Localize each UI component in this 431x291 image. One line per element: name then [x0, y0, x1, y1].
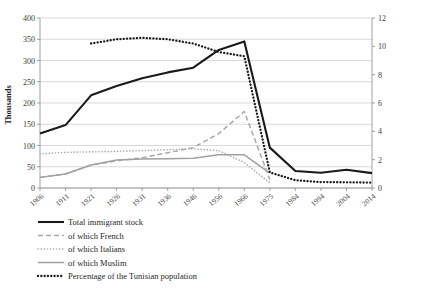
- legend-label: of which French: [68, 231, 124, 241]
- y-tick-label: 100: [23, 142, 35, 151]
- legend-label: of which Muslim: [68, 258, 127, 268]
- y-tick-label: 0: [31, 184, 35, 193]
- y2-tick-label: 4: [378, 127, 382, 136]
- y2-tick-label: 2: [378, 156, 382, 165]
- y-tick-label: 300: [23, 57, 35, 66]
- legend-label: Total immigrant stock: [68, 217, 144, 227]
- y-tick-label: 250: [23, 78, 35, 87]
- legend-label: Percentage of the Tunisian population: [68, 271, 198, 281]
- y-tick-label: 400: [23, 14, 35, 23]
- y-tick-label: 50: [27, 163, 35, 172]
- legend-label: of which Italians: [68, 244, 125, 254]
- y-tick-label: 150: [23, 120, 35, 129]
- y2-tick-label: 12: [378, 14, 386, 23]
- y2-tick-label: 10: [378, 42, 386, 51]
- y-tick-label: 350: [23, 35, 35, 44]
- chart-canvas: 050100150200250300350400 024681012 19061…: [0, 0, 431, 291]
- y2-tick-label: 8: [378, 71, 382, 80]
- y2-tick-label: 0: [378, 184, 382, 193]
- y-axis-title: Thousands: [3, 84, 13, 124]
- y-tick-label: 200: [23, 99, 35, 108]
- y2-tick-label: 6: [378, 99, 382, 108]
- immigration-chart: 050100150200250300350400 024681012 19061…: [0, 0, 431, 291]
